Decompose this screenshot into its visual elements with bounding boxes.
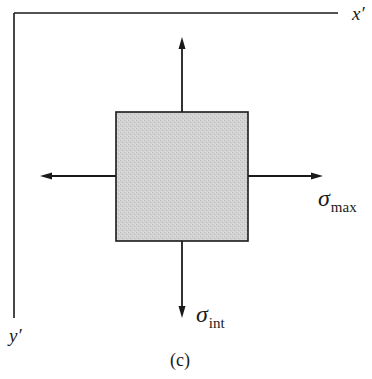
arrow-up-icon <box>179 37 186 112</box>
stress-element-diagram <box>0 0 372 379</box>
stress-element-square <box>116 112 248 241</box>
arrow-down-icon <box>179 241 186 318</box>
sigma-int-label: σint <box>196 302 225 326</box>
sigma-symbol: σ <box>318 185 330 211</box>
sigma-symbol: σ <box>196 301 208 327</box>
figure-caption: (c) <box>170 351 190 369</box>
arrow-right-icon <box>248 173 323 180</box>
y-prime-axis-label: y′ <box>9 326 22 345</box>
arrow-left-icon <box>40 173 116 180</box>
sigma-max-subscript: max <box>331 199 357 215</box>
sigma-int-subscript: int <box>209 315 225 331</box>
x-prime-axis-label: x′ <box>352 4 365 23</box>
sigma-max-label: σmax <box>318 186 357 210</box>
